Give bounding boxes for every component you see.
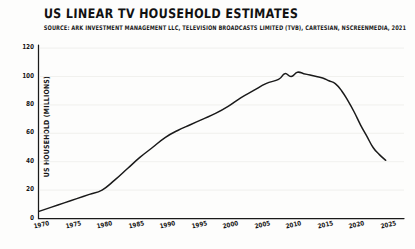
- gridlines: [40, 48, 404, 190]
- data-series-line: [39, 72, 386, 211]
- axis-lines: [39, 45, 405, 219]
- plot-area: [0, 0, 415, 249]
- chart-container: US LINEAR TV HOUSEHOLD ESTIMATES SOURCE:…: [0, 0, 415, 249]
